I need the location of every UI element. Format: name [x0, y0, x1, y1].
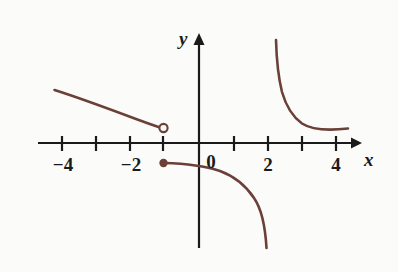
filled-dot-marker: [159, 159, 167, 167]
tick-label-4: 4: [328, 155, 344, 174]
x-axis-label: x: [364, 150, 374, 169]
y-axis-label: y: [179, 29, 187, 48]
plot-canvas: [0, 0, 398, 272]
tick-label-2: 2: [260, 155, 276, 174]
tick-label-minus2: −2: [115, 155, 147, 174]
axes-group: [38, 33, 362, 248]
tick-label-origin: 0: [203, 152, 219, 171]
curve-middle-branch: [164, 163, 267, 248]
curve-right-branch: [276, 40, 348, 130]
curve-left-branch: [55, 90, 162, 128]
open-circle-marker: [159, 124, 167, 132]
y-axis-arrow-icon: [194, 33, 205, 45]
graph-figure: y x −4 −2 0 2 4: [0, 0, 398, 272]
tick-label-minus4: −4: [47, 155, 79, 174]
x-axis-arrow-icon: [351, 138, 362, 149]
